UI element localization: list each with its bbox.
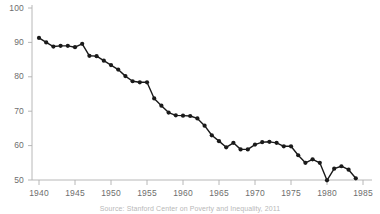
data-point [339, 164, 343, 168]
chart-caption: Source: Stanford Center on Poverty and I… [0, 205, 380, 214]
data-point [174, 113, 178, 117]
data-point [289, 144, 293, 148]
data-point [59, 44, 63, 48]
x-tick-label: 1970 [235, 189, 275, 198]
data-point [123, 74, 127, 78]
data-point [239, 147, 243, 151]
data-point [282, 144, 286, 148]
data-point [73, 45, 77, 49]
x-tick-label: 1955 [127, 189, 167, 198]
x-tick-label: 1950 [91, 189, 131, 198]
x-tick-label: 1960 [163, 189, 203, 198]
data-point [44, 40, 48, 44]
data-point [318, 161, 322, 165]
x-tick-label: 1980 [307, 189, 347, 198]
series-line [39, 38, 356, 180]
data-point [203, 124, 207, 128]
data-point [267, 140, 271, 144]
y-tick-label: 70 [0, 107, 24, 116]
data-point [37, 36, 41, 40]
data-point [195, 116, 199, 120]
data-point [102, 59, 106, 63]
chart-container: Source: Stanford Center on Poverty and I… [0, 0, 380, 214]
data-point [152, 96, 156, 100]
x-tick-label: 1940 [19, 189, 59, 198]
data-point [260, 140, 264, 144]
x-tick-label: 1985 [343, 189, 380, 198]
data-point [246, 147, 250, 151]
data-point [210, 133, 214, 137]
data-point [138, 80, 142, 84]
y-tick-label: 80 [0, 72, 24, 81]
data-point [188, 114, 192, 118]
data-point [167, 110, 171, 114]
x-tick-label: 1965 [199, 189, 239, 198]
data-point [303, 161, 307, 165]
x-tick-label: 1945 [55, 189, 95, 198]
data-point [253, 142, 257, 146]
data-point [181, 114, 185, 118]
data-point [51, 44, 55, 48]
data-point [80, 42, 84, 46]
x-tick-label: 1975 [271, 189, 311, 198]
data-point [145, 80, 149, 84]
data-point [224, 145, 228, 149]
data-point [95, 54, 99, 58]
data-point [275, 141, 279, 145]
data-point [325, 178, 329, 182]
y-tick-label: 90 [0, 38, 24, 47]
data-point [217, 139, 221, 143]
data-point [347, 168, 351, 172]
data-point [66, 44, 70, 48]
data-point [311, 157, 315, 161]
data-point [109, 63, 113, 67]
line-chart-plot [0, 0, 380, 214]
data-point [131, 79, 135, 83]
data-point [332, 167, 336, 171]
data-point [116, 67, 120, 71]
y-tick-label: 100 [0, 4, 24, 13]
data-point [296, 153, 300, 157]
y-tick-label: 50 [0, 176, 24, 185]
y-tick-label: 60 [0, 141, 24, 150]
data-point [354, 176, 358, 180]
data-point [159, 104, 163, 108]
data-point [87, 54, 91, 58]
data-point [231, 141, 235, 145]
